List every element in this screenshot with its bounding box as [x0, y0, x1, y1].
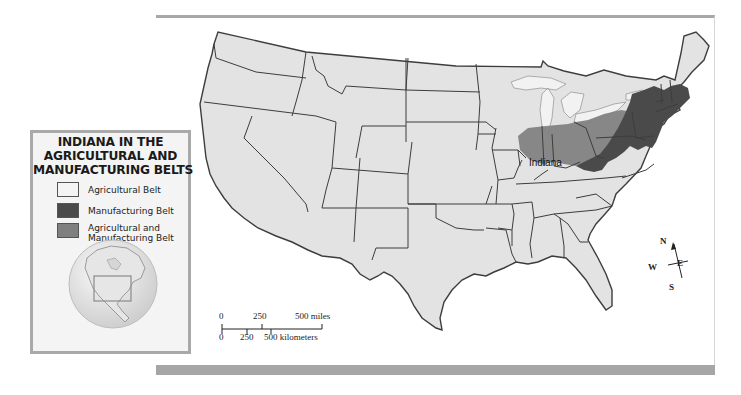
- legend-title-line: AGRICULTURAL AND: [33, 149, 188, 163]
- legend-item-agricultural: Agricultural Belt: [57, 182, 161, 197]
- legend-title: INDIANA IN THE AGRICULTURAL AND MANUFACT…: [33, 135, 188, 177]
- compass-s: S: [669, 282, 674, 292]
- us-land: [200, 32, 709, 330]
- legend-title-line: INDIANA IN THE: [33, 135, 188, 149]
- legend-title-line: MANUFACTURING BELTS: [33, 163, 188, 177]
- globe-locator-icon: [67, 238, 159, 330]
- legend-box: INDIANA IN THE AGRICULTURAL AND MANUFACT…: [30, 130, 191, 354]
- legend-label: Agricultural Belt: [88, 182, 161, 195]
- swatch-agricultural: [57, 182, 79, 197]
- scale-miles-250: 250: [253, 311, 267, 321]
- north-arrow-icon: [671, 242, 676, 250]
- swatch-manufacturing: [57, 203, 79, 218]
- legend-label: Agricultural and: [88, 223, 174, 233]
- legend-item-manufacturing: Manufacturing Belt: [57, 203, 174, 218]
- scale-miles-500: 500 miles: [295, 311, 330, 321]
- bottom-bar: [156, 365, 715, 375]
- compass-n: N: [660, 236, 667, 246]
- compass-w: W: [648, 262, 657, 272]
- indiana-label: Indiana: [529, 157, 562, 168]
- compass-e: E: [677, 258, 683, 268]
- swatch-ag-manufacturing: [57, 223, 79, 238]
- scale-km-250: 250: [240, 332, 254, 342]
- us-map: [156, 18, 714, 365]
- scale-km-0: 0: [219, 332, 224, 342]
- scale-km-500: 500 kilometers: [264, 332, 318, 342]
- scale-miles-0: 0: [219, 311, 224, 321]
- legend-label: Manufacturing Belt: [88, 203, 174, 216]
